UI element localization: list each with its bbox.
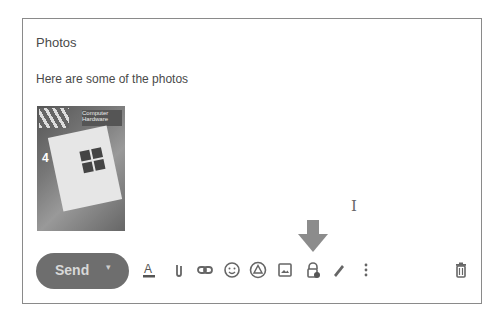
svg-text:A: A <box>144 262 152 276</box>
compose-window: Photos Here are some of the photos Compu… <box>22 18 482 304</box>
photo-icon[interactable] <box>276 261 294 279</box>
drive-icon[interactable] <box>249 261 267 279</box>
callout-arrow-icon <box>303 220 323 250</box>
send-button[interactable]: Send ▾ <box>36 253 129 289</box>
signature-icon[interactable] <box>330 261 348 279</box>
confidential-mode-icon[interactable] <box>304 261 322 279</box>
attach-icon[interactable] <box>170 261 188 279</box>
link-icon[interactable] <box>196 261 214 279</box>
subject-line[interactable]: Photos <box>36 35 76 50</box>
emoji-icon[interactable] <box>223 261 241 279</box>
photo-number: 4 <box>42 151 49 165</box>
photo-cover-text: Computer Hardware <box>82 110 122 126</box>
compose-toolbar: Send ▾ A <box>36 253 471 289</box>
more-options-icon[interactable] <box>357 261 375 279</box>
send-options-chevron-icon[interactable]: ▾ <box>106 262 111 272</box>
photo-detail <box>39 108 69 128</box>
message-body[interactable]: Here are some of the photos <box>36 72 188 86</box>
text-cursor-icon: I <box>351 197 357 215</box>
send-label: Send <box>55 262 89 278</box>
discard-icon[interactable] <box>452 261 470 279</box>
photo-book <box>48 126 122 212</box>
inline-photo[interactable]: Computer Hardware 4 <box>37 106 125 231</box>
text-format-icon[interactable]: A <box>140 261 158 279</box>
